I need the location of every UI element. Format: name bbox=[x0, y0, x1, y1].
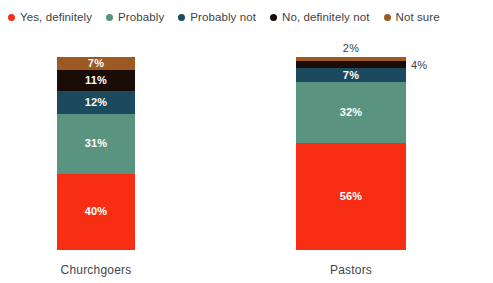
chart-legend: Yes, definitely Probably Probably not No… bbox=[8, 12, 440, 24]
bar-segment[interactable]: 40% bbox=[57, 174, 135, 250]
legend-dot-icon bbox=[106, 14, 113, 21]
bar-segment[interactable]: 56% bbox=[296, 143, 406, 250]
legend-item-label: Probably not bbox=[190, 12, 256, 24]
bar-group-pastors: 2% 4% 7% 32% 56% Pastors bbox=[296, 40, 406, 283]
legend-item-label: Probably bbox=[118, 12, 164, 24]
category-label-churchgoers: Churchgoers bbox=[57, 263, 135, 277]
legend-dot-icon bbox=[270, 14, 277, 21]
stacked-bar: 7% 11% 12% 31% 40% bbox=[57, 57, 135, 250]
legend-item-not-sure: Not sure bbox=[384, 12, 440, 24]
chart-plot-area: 7% 11% 12% 31% 40% Churchgoers 2% 4% bbox=[0, 40, 493, 283]
legend-item-probably-not: Probably not bbox=[178, 12, 256, 24]
bar-segment-label: 4% bbox=[411, 59, 427, 70]
bar-segment[interactable]: 7% bbox=[57, 57, 135, 70]
legend-item-label: Not sure bbox=[396, 12, 440, 24]
bar-segment-label: 12% bbox=[85, 97, 108, 108]
bar-segment-label: 56% bbox=[340, 191, 363, 202]
category-label-pastors: Pastors bbox=[296, 263, 406, 277]
bar-segment-label: 7% bbox=[88, 58, 104, 69]
bar-segment[interactable]: 32% bbox=[296, 82, 406, 143]
legend-dot-icon bbox=[8, 14, 15, 21]
legend-item-probably: Probably bbox=[106, 12, 164, 24]
bar-segment-label: 31% bbox=[85, 138, 108, 149]
stacked-bar: 2% 4% 7% 32% 56% bbox=[296, 57, 406, 250]
bar-segment-label: 2% bbox=[343, 43, 359, 54]
bar-segment[interactable]: 31% bbox=[57, 114, 135, 173]
bar-segment-label: 40% bbox=[85, 206, 108, 217]
legend-dot-icon bbox=[178, 14, 185, 21]
legend-item-no-definitely-not: No, definitely not bbox=[270, 12, 369, 24]
bar-segment[interactable]: 11% bbox=[57, 70, 135, 91]
bar-group-churchgoers: 7% 11% 12% 31% 40% Churchgoers bbox=[57, 40, 135, 283]
bar-segment-label: 7% bbox=[343, 70, 359, 81]
bar-segment-label: 32% bbox=[340, 107, 363, 118]
bar-segment[interactable]: 12% bbox=[57, 91, 135, 114]
legend-item-label: No, definitely not bbox=[282, 12, 369, 24]
legend-item-yes-definitely: Yes, definitely bbox=[8, 12, 92, 24]
bar-segment[interactable]: 4% bbox=[296, 61, 406, 69]
bar-segment[interactable]: 7% bbox=[296, 68, 406, 81]
bar-segment-label: 11% bbox=[85, 75, 107, 86]
legend-item-label: Yes, definitely bbox=[20, 12, 92, 24]
legend-dot-icon bbox=[384, 14, 391, 21]
